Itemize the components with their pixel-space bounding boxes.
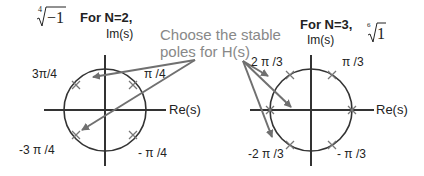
right-title: For N=3, xyxy=(300,18,352,31)
left-pole-label-q4: - π /4 xyxy=(138,147,167,159)
pole-marker-icon xyxy=(286,71,294,79)
right-re-label: Re(s) xyxy=(376,103,408,116)
pole-marker-icon xyxy=(129,131,137,139)
annotation-arrows xyxy=(82,60,291,137)
right-pole-label-q2: 2 π /3 xyxy=(251,56,283,68)
left-im-label: Im(s) xyxy=(106,28,133,40)
left-root-index: 4 xyxy=(38,6,42,14)
right-im-label: Im(s) xyxy=(307,34,334,46)
annotation-line1: Choose the stable xyxy=(160,26,281,43)
pole-marker-icon xyxy=(328,141,336,149)
right-pole-label-q4: - π /3 xyxy=(337,148,366,160)
left-root-radicand: −1 xyxy=(47,10,64,26)
annotation-line2: poles for H(s) xyxy=(160,43,250,60)
arrow-icon xyxy=(82,60,195,130)
left-pole-label-q3: -3 π /4 xyxy=(19,144,55,156)
arrow-icon xyxy=(243,61,272,137)
right-root-index: 6 xyxy=(367,22,371,29)
left-pole-label-q1: π /4 xyxy=(144,68,166,80)
left-pole-label-q2: 3π/4 xyxy=(32,68,57,80)
right-pole-label-q1: π /3 xyxy=(342,56,364,68)
pole-marker-icon xyxy=(286,141,294,149)
left-title: For N=2, xyxy=(80,11,132,24)
right-pole-label-q3: -2 π /3 xyxy=(248,148,284,160)
pole-marker-icon xyxy=(129,81,137,89)
pole-marker-icon xyxy=(328,71,336,79)
left-re-label: Re(s) xyxy=(169,103,201,116)
right-root-radicand: 1 xyxy=(377,26,385,42)
